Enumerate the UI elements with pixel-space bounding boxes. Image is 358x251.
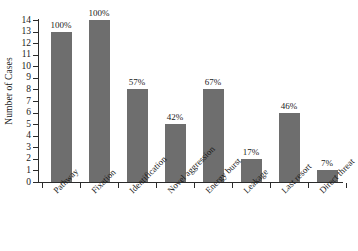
x-axis-tick (270, 183, 271, 188)
y-axis-tick-label: 2 (26, 155, 31, 165)
y-axis-tick-label: 13 (22, 27, 32, 37)
bar: 100% (89, 20, 110, 182)
plot-area: 100%100%57%42%67%17%46%7% (38, 14, 343, 182)
bar: 67% (203, 89, 224, 182)
x-axis-tick (194, 183, 195, 188)
bar: 57% (127, 89, 148, 182)
bar: 100% (51, 32, 72, 182)
y-axis-title: Number of Cases (0, 0, 18, 182)
y-axis-tick-label: 9 (26, 74, 31, 84)
bar-value-label: 100% (51, 21, 72, 30)
x-axis-tick (232, 183, 233, 188)
y-axis-tick-label: 7 (26, 97, 31, 107)
y-axis-tick-label: 12 (22, 39, 32, 49)
y-axis-tick: 0 (33, 182, 38, 183)
bar-value-label: 46% (281, 102, 298, 111)
x-axis-tick (42, 183, 43, 188)
y-axis-tick-label: 1 (26, 166, 31, 176)
y-axis-tick-label: 4 (26, 131, 31, 141)
x-axis-tick (308, 183, 309, 188)
y-axis-tick-label: 6 (26, 108, 31, 118)
bar-value-label: 17% (243, 148, 260, 157)
bar-value-label: 7% (321, 159, 333, 168)
y-axis-tick-label: 3 (26, 143, 31, 153)
bar-value-label: 67% (205, 78, 222, 87)
x-axis-tick (80, 183, 81, 188)
x-axis-tick (156, 183, 157, 188)
y-axis-tick-label: 14 (22, 16, 32, 26)
y-axis-tick-label: 5 (26, 120, 31, 130)
bar-value-label: 57% (129, 78, 146, 87)
bar-value-label: 100% (89, 9, 110, 18)
y-axis-title-text: Number of Cases (4, 57, 14, 124)
y-axis-tick-label: 8 (26, 85, 31, 95)
x-axis-tick (346, 183, 347, 188)
bar-value-label: 42% (167, 113, 184, 122)
x-axis-tick (118, 183, 119, 188)
y-axis-tick-label: 10 (22, 62, 32, 72)
y-axis-tick-label: 0 (26, 178, 31, 188)
bar-chart: Number of Cases 01234567891011121314 100… (0, 0, 358, 251)
y-axis-tick-label: 11 (22, 50, 31, 60)
